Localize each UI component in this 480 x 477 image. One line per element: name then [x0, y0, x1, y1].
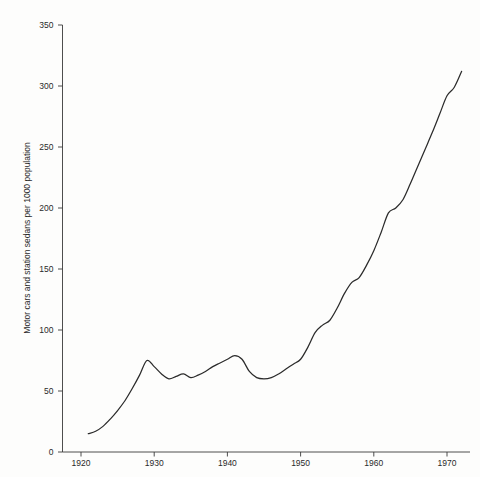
x-tick-label: 1930: [145, 458, 164, 468]
x-tick-label: 1920: [72, 458, 91, 468]
x-tick-label: 1950: [291, 458, 310, 468]
y-tick-label: 250: [39, 142, 53, 152]
chart-figure: 050100150200250300350 192019301940195019…: [0, 0, 480, 477]
x-tick-label: 1940: [218, 458, 237, 468]
y-tick-label: 350: [39, 20, 53, 30]
y-tick-label: 100: [39, 325, 53, 335]
y-axis-title: Motor cars and station sedans per 1000 p…: [22, 142, 32, 334]
line-chart: 050100150200250300350 192019301940195019…: [0, 0, 480, 477]
x-tick-label: 1960: [364, 458, 383, 468]
y-tick-label: 200: [39, 203, 53, 213]
y-tick-label: 150: [39, 264, 53, 274]
y-tick-label: 0: [49, 447, 54, 457]
data-series-line: [88, 71, 461, 433]
x-tick-group: 192019301940195019601970: [72, 452, 457, 468]
y-tick-label: 300: [39, 81, 53, 91]
y-tick-label: 50: [44, 386, 54, 396]
x-tick-label: 1970: [438, 458, 457, 468]
y-tick-group: 050100150200250300350: [39, 20, 62, 457]
